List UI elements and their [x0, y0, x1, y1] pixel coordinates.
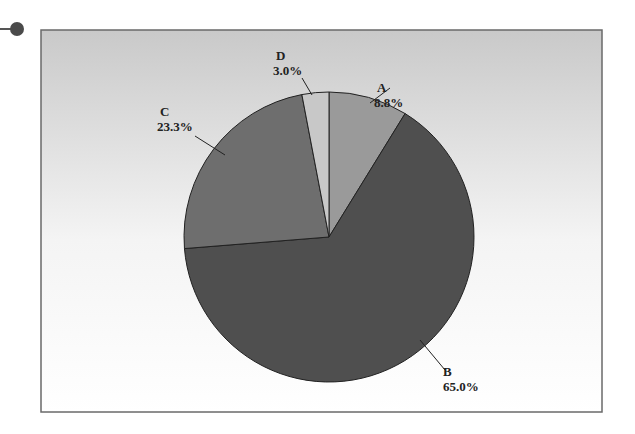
slice-category-label: A [377, 80, 387, 95]
connector-dot-icon [10, 22, 24, 36]
slice-percent-label: 65.0% [443, 379, 479, 394]
slice-percent-label: 3.0% [273, 63, 302, 78]
slice-category-label: B [443, 364, 452, 379]
slice-category-label: D [276, 48, 285, 63]
slice-percent-label: 23.3% [157, 119, 193, 134]
slice-category-label: C [160, 104, 169, 119]
pie-chart: A8.8%B65.0%C23.3%D3.0% [0, 0, 635, 434]
slice-percent-label: 8.8% [374, 95, 403, 110]
pie-slices [184, 92, 474, 382]
